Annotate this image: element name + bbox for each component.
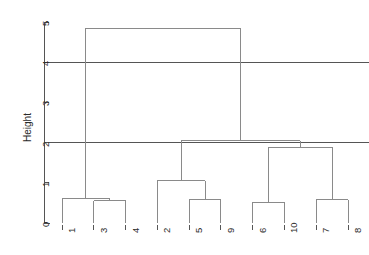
- dendrogram-plot: Height 01234513425961078: [0, 0, 369, 255]
- y-tick-label: 3: [40, 101, 51, 106]
- leaf-label-7: 7: [320, 228, 331, 233]
- y-tick-label: 0: [40, 222, 51, 227]
- leaf-label-5: 5: [193, 228, 204, 233]
- leaf-label-2: 2: [161, 228, 172, 233]
- dendrogram-canvas: [0, 0, 369, 255]
- leaf-label-10: 10: [288, 222, 299, 233]
- y-tick-label: 4: [40, 61, 51, 66]
- leaf-label-6: 6: [257, 228, 268, 233]
- leaf-label-3: 3: [98, 228, 109, 233]
- leaf-label-4: 4: [130, 228, 141, 233]
- y-tick-label: 5: [40, 21, 51, 26]
- y-axis-title: Height: [22, 113, 33, 142]
- leaf-label-1: 1: [66, 228, 77, 233]
- y-tick-label: 1: [40, 182, 51, 187]
- leaf-label-8: 8: [352, 228, 363, 233]
- leaf-label-9: 9: [225, 228, 236, 233]
- y-tick-label: 2: [40, 141, 51, 146]
